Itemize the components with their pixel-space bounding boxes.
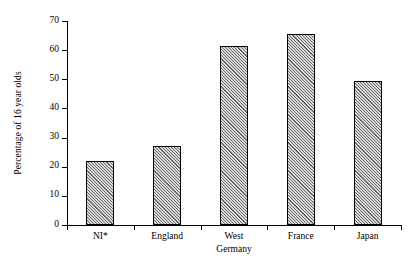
bar xyxy=(354,81,382,225)
y-tick-label: 50 xyxy=(50,73,60,83)
y-tick-label: 0 xyxy=(54,219,59,229)
bar xyxy=(153,146,181,225)
bar-chart: Percentage of 16 year olds 0102030405060… xyxy=(0,0,412,280)
x-axis-line xyxy=(67,225,401,226)
bar xyxy=(86,161,114,225)
x-axis-labels: NI*EnglandWest GermanyFranceJapan xyxy=(67,230,401,276)
y-tick-label: 70 xyxy=(50,15,60,25)
y-tick-label: 30 xyxy=(50,131,60,141)
x-axis-label: Japan xyxy=(323,230,412,243)
bars-layer xyxy=(67,18,401,225)
y-tick-label: 40 xyxy=(50,102,60,112)
plot-area: 010203040506070 xyxy=(67,18,401,225)
bar xyxy=(287,34,315,225)
y-axis-title: Percentage of 16 year olds xyxy=(13,43,23,203)
y-tick-label: 20 xyxy=(50,160,60,170)
y-tick-label: 60 xyxy=(50,44,60,54)
bar xyxy=(220,46,248,225)
y-tick-label: 10 xyxy=(50,189,60,199)
